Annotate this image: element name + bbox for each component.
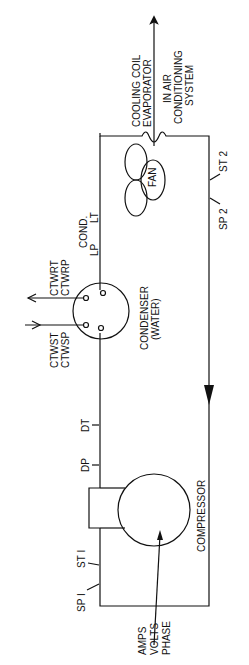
condenser-ports (84, 291, 106, 331)
diagram-canvas: FAN COOLING COIL EVAPORATOR IN AIR CONDI… (0, 0, 249, 665)
phase-label: PHASE (161, 621, 172, 655)
evaporator-label-2: EVAPORATOR (142, 59, 153, 127)
evaporator-label-4: CONDITIONING (173, 50, 184, 124)
svg-text:ST 2: ST 2 (218, 151, 229, 172)
evaporator-label-3: IN AIR (162, 74, 173, 103)
compressor-label: COMPRESSOR (196, 480, 207, 552)
evaporator-label-5: SYSTEM (184, 65, 195, 106)
svg-text:SP 2: SP 2 (218, 208, 229, 230)
dt-label: DT (80, 419, 91, 432)
ctwrp-label: CTWRP (60, 259, 71, 296)
st1-label: ST I (76, 550, 87, 568)
lp-label: LP (89, 243, 100, 256)
test-point-sp2: SP 2 (210, 198, 229, 230)
ctwsp-label: CTWSP (60, 332, 71, 368)
dp-label: DP (80, 458, 91, 472)
condenser-label: CONDENSER (139, 286, 150, 350)
amps-label: AMPS (137, 626, 148, 655)
fan-icon (125, 144, 165, 216)
sp1-label: SP I (76, 593, 87, 612)
compressor-symbol (89, 474, 190, 546)
cond-label: COND. (78, 216, 89, 248)
condenser-sublabel: (WATER) (150, 298, 161, 340)
evaporator-label-1: COOLING COIL (131, 54, 142, 127)
volts-label: VOLTS (149, 623, 160, 655)
piping-loop (100, 132, 209, 606)
refrigeration-circuit-diagram: FAN COOLING COIL EVAPORATOR IN AIR CONDI… (0, 0, 249, 665)
lt-label: LT (89, 212, 100, 223)
flow-direction-arrow (204, 385, 214, 405)
fan-label: FAN (147, 168, 158, 187)
ctwrt-label: CTWRT (49, 260, 60, 296)
ctwst-label: CTWST (49, 332, 60, 368)
test-point-st2: ST 2 (210, 151, 229, 180)
